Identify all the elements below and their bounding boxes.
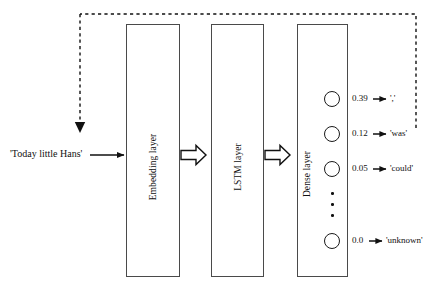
dense-node-0 (324, 91, 340, 107)
dense-node-2 (324, 161, 340, 177)
block-arrow-embedding-to-lstm (181, 146, 206, 165)
output-word-3: 'unknown' (386, 235, 423, 245)
block-arrow-lstm-to-dense (265, 146, 290, 165)
output-probability-2: 0.05 (352, 163, 368, 173)
output-probability-0: 0.39 (352, 93, 368, 103)
input-text: 'Today little Hans' (10, 148, 82, 159)
output-word-1: 'was' (390, 128, 407, 138)
ellipsis-dot-3 (331, 214, 334, 217)
diagram-canvas: 'Today little Hans' Embedding layer LSTM… (0, 0, 442, 292)
output-word-2: 'could' (390, 163, 413, 173)
output-word-0: ',' (390, 93, 396, 103)
output-probability-3: 0.0 (352, 235, 363, 245)
dense-layer-label: Dense layer (302, 134, 312, 214)
dense-node-3 (324, 233, 340, 249)
lstm-layer-label: LSTM layer (233, 127, 243, 207)
embedding-layer-label: Embedding layer (148, 127, 158, 207)
ellipsis-dot-2 (331, 203, 334, 206)
dense-node-1 (324, 126, 340, 142)
output-probability-1: 0.12 (352, 128, 368, 138)
feedback-arrowhead-icon (75, 122, 85, 133)
ellipsis-dot-1 (331, 192, 334, 195)
